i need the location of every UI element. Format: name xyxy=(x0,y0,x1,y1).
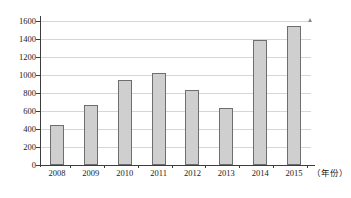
y-axis-tick-label: 0 xyxy=(2,161,36,170)
x-axis-tick xyxy=(138,165,139,168)
x-axis-tick-label: 2011 xyxy=(142,168,176,178)
x-axis-tick xyxy=(205,165,206,168)
bar xyxy=(50,125,64,166)
bar xyxy=(118,80,132,166)
x-axis-tick xyxy=(239,165,240,168)
y-axis-tick-label: 1600 xyxy=(2,17,36,26)
bar xyxy=(185,90,199,165)
x-axis-tick-label: 2014 xyxy=(243,168,277,178)
x-axis-tick-label: 2013 xyxy=(209,168,243,178)
y-axis-tick-label: 800 xyxy=(2,89,36,98)
bar xyxy=(287,26,301,165)
x-axis-tick xyxy=(70,165,71,168)
x-axis-tick xyxy=(172,165,173,168)
x-axis-tick xyxy=(307,165,308,168)
bar-series xyxy=(40,21,311,165)
y-axis-tick-label: 1000 xyxy=(2,71,36,80)
x-axis-tick-label: 2012 xyxy=(175,168,209,178)
y-axis-tick-label: 1200 xyxy=(2,53,36,62)
x-axis-tick xyxy=(104,165,105,168)
y-axis-tick-labels: 02004006008001000120014001600 xyxy=(0,21,36,165)
y-axis-tick-label: 1400 xyxy=(2,35,36,44)
bar xyxy=(84,105,98,165)
x-axis-tick-label: 2009 xyxy=(74,168,108,178)
bar xyxy=(152,73,166,165)
y-axis-tick-label: 200 xyxy=(2,143,36,152)
bar xyxy=(219,108,233,165)
x-axis-title: （年份） xyxy=(312,168,348,178)
x-axis-tick xyxy=(273,165,274,168)
bar-chart: 02004006008001000120014001600 2008200920… xyxy=(0,0,351,198)
y-axis-tick-label: 400 xyxy=(2,125,36,134)
x-axis-tick-labels: 20082009201020112012201320142015 xyxy=(40,168,315,182)
x-axis-tick-label: 2008 xyxy=(40,168,74,178)
bar xyxy=(253,40,267,165)
x-axis-tick-label: 2015 xyxy=(277,168,311,178)
y-axis-tick-label: 600 xyxy=(2,107,36,116)
x-axis-tick-label: 2010 xyxy=(108,168,142,178)
